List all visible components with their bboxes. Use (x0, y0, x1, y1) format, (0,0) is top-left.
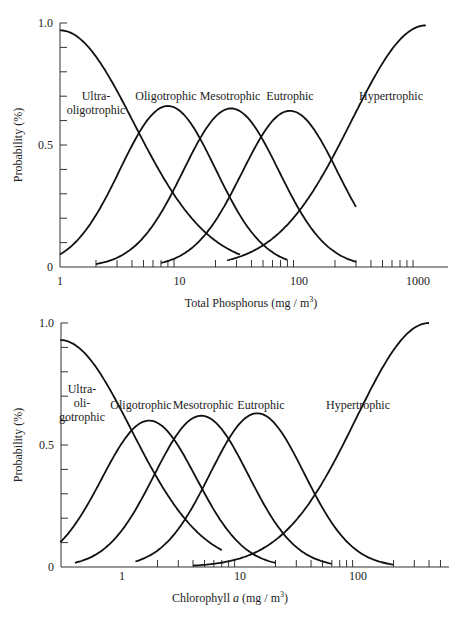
chart-chlorophyll-a: 1.0 0.5 0 1 10 100 Chlorophyll a (mg / m… (11, 316, 449, 605)
y-tick-label: 0.5 (39, 438, 54, 452)
svg-text:Eutrophic: Eutrophic (266, 89, 313, 103)
y-axis-label: Probability (%) (11, 408, 25, 482)
x-tick-label: 10 (234, 569, 246, 583)
svg-text:Mesotrophic: Mesotrophic (200, 89, 261, 103)
curves (60, 25, 426, 264)
svg-text:Ultra-: Ultra- (82, 89, 111, 103)
x-tick-label: 100 (290, 274, 308, 288)
trophic-state-probability-charts: 1.0 0.5 0 1 10 100 1000 Total Phosphorus… (0, 0, 465, 617)
curve-ultra-oligotrophic (60, 340, 221, 550)
curves (60, 323, 429, 566)
y-tick-label: 1.0 (39, 316, 54, 330)
x-ticks (96, 260, 419, 267)
svg-text:Ultra-: Ultra- (68, 382, 97, 396)
svg-text:oli-: oli- (74, 396, 91, 410)
y-tick-label: 0.5 (38, 138, 53, 152)
svg-text:Eutrophic: Eutrophic (237, 398, 284, 412)
y-ticks (61, 323, 68, 543)
x-axis-label: Chlorophyll a (mg / m3) (172, 590, 288, 605)
svg-text:Mesotrophic: Mesotrophic (173, 398, 234, 412)
x-tick-label: 1 (57, 274, 63, 288)
chart-total-phosphorus: 1.0 0.5 0 1 10 100 1000 Total Phosphorus… (11, 16, 448, 310)
curve-hypertrophic (193, 323, 429, 566)
curve-ultra-oligotrophic (60, 30, 240, 254)
svg-text:oligotrophic: oligotrophic (67, 103, 126, 117)
curve-eutrophic (135, 413, 393, 564)
series-labels: Ultra- oligotrophic Oligotrophic Mesotro… (67, 89, 423, 117)
y-ticks (60, 23, 67, 243)
y-tick-label: 0 (47, 260, 53, 274)
x-tick-label: 100 (349, 569, 367, 583)
x-tick-label: 10 (174, 274, 186, 288)
y-tick-label: 0 (48, 560, 54, 574)
y-tick-label: 1.0 (38, 16, 53, 30)
svg-text:gotrophic: gotrophic (59, 410, 105, 424)
svg-text:Hypertrophic: Hypertrophic (326, 398, 390, 412)
svg-text:Hypertrophic: Hypertrophic (359, 89, 423, 103)
y-axis-label: Probability (%) (11, 108, 25, 182)
svg-text:Oligotrophic: Oligotrophic (135, 89, 196, 103)
x-axis-label: Total Phosphorus (mg / m3) (185, 295, 318, 310)
x-tick-label: 1000 (406, 274, 430, 288)
curve-oligotrophic (60, 106, 287, 260)
x-tick-label: 1 (119, 569, 125, 583)
svg-text:Oligotrophic: Oligotrophic (110, 398, 171, 412)
